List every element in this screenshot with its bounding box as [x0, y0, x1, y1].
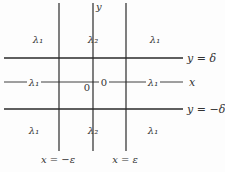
region-label-middle-left: λ₁: [28, 77, 39, 88]
region-label-bottom-center: λ₂: [87, 125, 98, 136]
label-x-neg-eps: x = −ε: [41, 154, 75, 165]
diagram-canvas: y = δ x y = −δ y x = −ε x = ε 0 0 λ₁ λ₂ …: [0, 0, 225, 172]
region-label-middle-right: λ₁: [147, 77, 158, 88]
label-x-axis: x: [189, 76, 196, 89]
region-label-top-left: λ₁: [32, 34, 43, 45]
region-label-top-right: λ₁: [149, 34, 160, 45]
label-x-eps: x = ε: [112, 154, 138, 165]
region-label-bottom-left: λ₁: [28, 125, 39, 136]
label-y-neg-delta: y = −δ: [186, 103, 225, 116]
label-y-axis: y: [95, 1, 102, 12]
region-label-bottom-right: λ₁: [147, 125, 158, 136]
region-diagram: y = δ x y = −δ y x = −ε x = ε 0 0 λ₁ λ₂ …: [0, 0, 225, 172]
origin-label: 0: [84, 82, 90, 93]
axis-zero-label: 0: [101, 77, 107, 88]
label-y-delta: y = δ: [186, 52, 216, 65]
region-label-top-center: λ₂: [87, 34, 98, 45]
